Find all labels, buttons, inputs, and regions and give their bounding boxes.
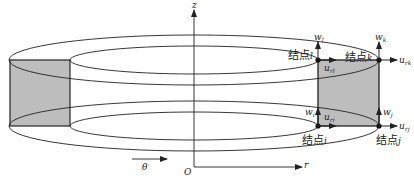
w-l-label: wl [314,33,324,43]
node-k-label: 结点k [345,48,372,64]
ring-element-diagram: z r O θ 结点l wl url 结点k wk urk 结点i wi uri… [0,0,414,183]
node-l-label: 结点l [288,46,313,62]
r-axis-label: r [304,161,308,170]
u-i-label: uri [324,113,335,123]
u-k-label: urk [399,56,411,66]
node-i-label: 结点i [302,131,327,147]
origin-label: O [184,168,191,177]
u-j-label: urj [399,122,410,132]
w-i-label: wi [305,108,315,118]
w-k-label: wk [375,33,386,43]
w-j-label: wj [383,108,393,118]
diagram-graphics [0,0,414,183]
theta-label: θ [142,163,147,172]
z-axis-label: z [192,1,197,10]
node-j-label: 结点j [376,131,401,147]
left-cross-section [10,60,70,126]
u-l-label: url [324,64,335,74]
